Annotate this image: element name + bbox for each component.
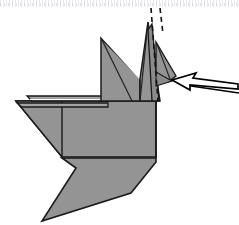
left-lower-thin-flap xyxy=(17,103,108,107)
origami-diagram-figure: Origami folding step diagram Shaded pape… xyxy=(0,0,239,225)
origami-illustration xyxy=(0,0,239,225)
valley-fold-dashed-line-secondary xyxy=(160,8,163,34)
left-wing-tip xyxy=(16,101,62,157)
lower-tail-point xyxy=(42,158,156,221)
left-upper-thin-flap xyxy=(27,96,108,101)
